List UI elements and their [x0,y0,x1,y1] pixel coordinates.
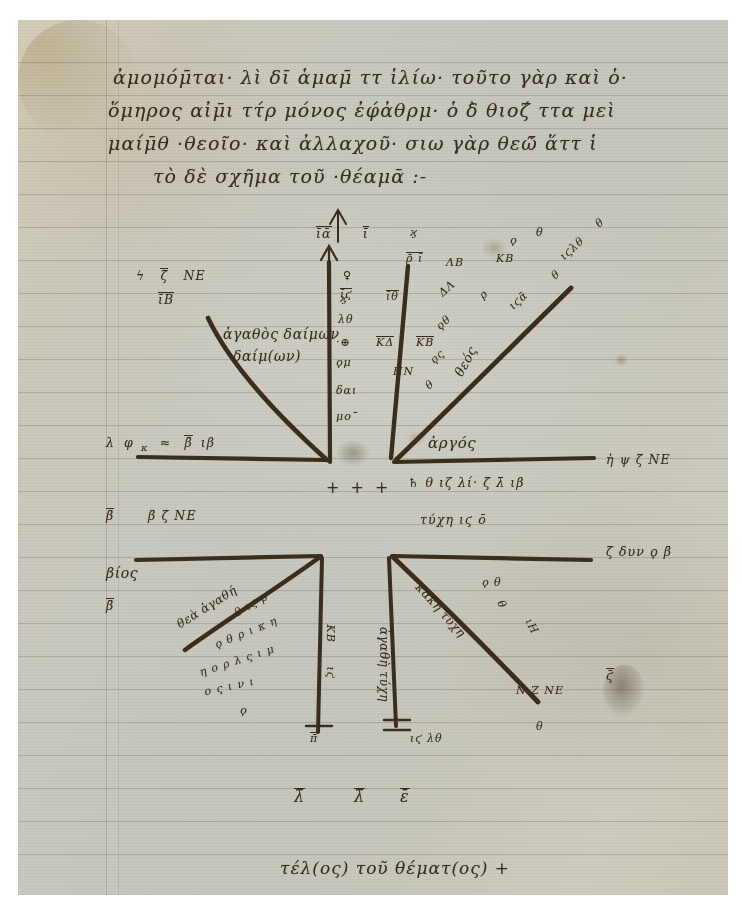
center-col-c1r6: μο¯ [336,410,358,423]
ruling-line [18,62,728,63]
center-col-c1r3: ·⊕ [336,336,351,349]
numeral-kappa: κ [141,442,149,453]
upper-right-numeral-theta: θ [536,226,544,239]
ruling-line [18,194,728,195]
header-line-2: ὅμηρος αἰμ̄ι ττ́ρ μόνος ἐφ́ἀθρμ· ὁ δ̀ θι… [108,99,616,121]
ruling-line [18,359,728,360]
upper-right-apex-rho: ϗ [410,226,418,239]
center-col-c1r2: λθ [338,313,354,326]
numeral-ib: ιβ [201,435,215,450]
ruling-line [18,425,728,426]
center-line-bottom-tyche: τύχη ιϛ ο̄ [420,512,487,527]
lower-left-cluster-line: ο ς ι ν ι [203,675,256,698]
header-line-1: ἀμομόμ̄ται· λὶ δῑ ἁμαμ̄ ττ ἱλίω· τοῦτο … [113,66,628,88]
upper-right-diagonal-numeral-2: θ [549,267,563,282]
label-argos: ἀργός [428,434,476,452]
center-column-row: ♀ [343,269,352,282]
label-agathos-daimon: ἀγαθὸς δαίμων [223,326,340,342]
lower-left-stem-numeral-kb: ΚΒ [324,625,337,643]
lower-right-numeral-stigma: ϛ̄ [606,668,614,682]
numeral-phi: φ [124,435,134,450]
ruling-line [18,95,728,96]
parchment-stain [406,430,426,446]
left-margin-beta-2: β̄ [106,598,114,612]
ruling-line [18,854,728,855]
ruling-line [18,128,728,129]
upper-right-apex-numerals: ρ̄ ῑ [406,252,423,265]
ruling-line [18,524,728,525]
header-line-4: τὸ δὲ σχῆμα τοῦ ·θέαμᾱ :- [153,165,427,187]
upper-right-wedge-theta2: ϙς [428,347,448,367]
ruling-line [18,821,728,822]
upper-right-diagonal-numeral-3: ιϛλθ [557,234,587,262]
center-line-top-numerals: ♄ θ ιζ λί· ζ̄ λ̄ ιβ [408,475,525,490]
upper-left-baseline-numerals: λ φ κ ≈ β̄ ιβ [106,435,215,453]
lower-left-stem-numeral-is: ιϛ [324,667,337,679]
numeral-beta: β̄ [184,435,192,449]
ruling-line [18,722,728,723]
label-agathe-tyche: ἀγαθὴ τύχη [377,627,391,702]
numeral-koppa: ϟ [136,268,145,283]
crosses-marker: + + + [326,478,391,497]
ruling-line [18,260,728,261]
upper-left-numeral-group: ϟ ζ̄ ΝΕ [136,268,206,283]
lower-left-cluster-line: η ο ρ λ ς ι μ [198,642,276,679]
right-axis-bottom-label: ζ̄ δυν ϙ β̄ [606,544,672,559]
ruling-line [18,623,728,624]
numeral-ia: ῑᾱ [316,226,332,240]
upper-right-wedge-dl: ΔΛ [436,278,458,300]
ruling-line [18,590,728,591]
colophon-text: τέλ(ος) τοῦ θέματ(ος) + [280,858,510,878]
left-margin-bios: βίος [106,565,138,581]
lower-right-cluster-line: θ [536,720,544,733]
center-col-c2r1: ῑθ [386,290,399,303]
parchment-stain [614,353,628,367]
center-col-c2r2: ΚΔ [376,336,394,349]
upper-right-wedge-theta3: θ [423,377,437,392]
numeral-ne: ΝΕ [183,268,205,283]
center-col-c2r3: ΚΒ [416,336,434,349]
ruling-line [18,293,728,294]
label-theos-diagonal: θεός [451,344,479,379]
ruling-line [18,788,728,789]
numeral-zeta: ζ̄ [160,268,168,282]
numeral-iota: ῑ [363,226,369,240]
ruling-line [18,392,728,393]
upper-right-wedge-theta1: ϙθ [434,313,454,333]
upper-right-wedge-rho: ρ [477,287,491,302]
numeral-rho-iota: ρ̄ ῑ [406,252,423,265]
label-agathos-daimon-line2: δαίμ(ων) [233,348,301,364]
center-col-c1r1: ῑϛ [340,288,352,301]
upper-right-numeral-lb: ΛΒ [446,256,464,269]
lower-right-cluster-line: Ν Ζ ΝΕ [516,684,564,697]
upper-left-numeral-ib: ῑΒ [158,292,174,306]
upper-right-numeral-theta-b: ϙ [510,234,518,247]
lower-right-cluster-line: ϙ θ [482,576,502,589]
bottom-numeral-1: λ̄ [294,788,305,806]
parchment-folio: ἀμομόμ̄ται· λὶ δῑ ἁμαμ̄ ττ ἱλίω· τοῦτο … [18,20,728,895]
ruling-line [18,689,728,690]
left-margin-beta-1: β̄ [106,508,114,522]
ruling-line [18,656,728,657]
ruling-line-vertical [106,20,107,895]
left-margin-numerals: β̄ ζ̄ ΝΕ [148,508,197,523]
center-col-c2r4: ΗΝ [393,365,414,378]
numeral-tilde: ≈ [160,435,172,450]
ruling-line [18,227,728,228]
upper-center-apex-numerals: ῑᾱ ῑ [316,226,369,241]
lower-left-cluster-line: ϙ [240,704,248,717]
right-axis-top-label: ἠ ψ ζ̄ ΝΕ [606,452,671,467]
bottom-numeral-2: λ̄ [354,788,365,806]
center-col-c1r5: δαι [336,384,357,397]
header-line-3: μαίμ̄θ ·θεοῖο· καὶ ἀλλαχοῦ· σιω γὰρ θεῶ̄… [108,132,598,154]
bottom-numeral-3: ε̄ [400,788,410,806]
ruling-line [18,161,728,162]
lower-left-foot-numeral: π̄ [310,732,318,745]
upper-right-numeral-kb: ΚΒ [496,252,514,265]
lower-right-cluster-line: θ [494,598,509,611]
numeral-lambda: λ [106,435,115,450]
lower-right-foot-numerals: ιϛ λθ [410,732,443,745]
screenshot-root: ἀμομόμ̄ται· λὶ δῑ ἁμαμ̄ ττ ἱλίω· τοῦτο … [0,0,742,920]
parchment-stain [336,440,370,466]
center-col-c1r4: ϙμ [336,356,352,369]
